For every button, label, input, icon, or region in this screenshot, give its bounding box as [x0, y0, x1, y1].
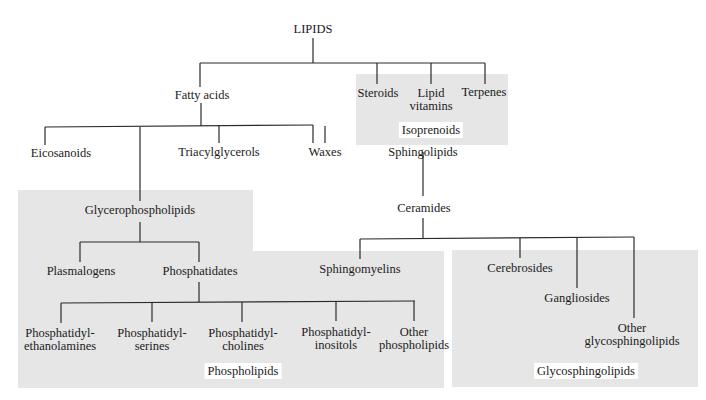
- node-phosphatidylethanolamines: Phosphatidyl- ethanolamines: [24, 327, 96, 353]
- node-plasmalogens: Plasmalogens: [47, 265, 116, 278]
- node-other-glycosphingolipids-line2: glycosphingolipids: [584, 335, 679, 348]
- node-waxes: Waxes: [308, 146, 341, 159]
- node-terpenes: Terpenes: [462, 86, 507, 99]
- node-other-glycosphingolipids: Other glycosphingolipids: [584, 322, 679, 348]
- node-pe-line2: ethanolamines: [24, 340, 96, 353]
- node-other-pl-line2: phospholipids: [379, 339, 449, 352]
- node-lipid-vitamins: Lipid vitamins: [409, 87, 452, 113]
- node-fatty-acids: Fatty acids: [175, 89, 230, 102]
- node-eicosanoids: Eicosanoids: [31, 147, 91, 160]
- group-label-isoprenoids: Isoprenoids: [399, 122, 463, 138]
- node-cerebrosides: Cerebrosides: [487, 262, 552, 275]
- node-steroids: Steroids: [358, 87, 399, 100]
- node-glycerophospholipids: Glycerophospholipids: [85, 204, 195, 217]
- node-gangliosides: Gangliosides: [544, 292, 609, 305]
- node-lipids: LIPIDS: [294, 23, 333, 36]
- node-sphingolipids: Sphingolipids: [388, 146, 457, 159]
- node-phosphatidylcholines: Phosphatidyl- cholines: [208, 327, 277, 353]
- node-ceramides: Ceramides: [397, 202, 450, 215]
- group-label-phospholipids: Phospholipids: [205, 363, 282, 379]
- node-sphingomyelins: Sphingomyelins: [319, 263, 400, 276]
- node-pc-line2: cholines: [208, 340, 277, 353]
- node-lipid-vitamins-line2: vitamins: [409, 100, 452, 113]
- node-pi-line2: inositols: [301, 339, 370, 352]
- group-label-glycosphingolipids: Glycosphingolipids: [534, 363, 638, 379]
- node-phosphatidylinositols: Phosphatidyl- inositols: [301, 326, 370, 352]
- node-phosphatidates: Phosphatidates: [163, 265, 238, 278]
- node-ps-line2: serines: [117, 340, 186, 353]
- node-phosphatidylserines: Phosphatidyl- serines: [117, 327, 186, 353]
- node-triacylglycerols: Triacylglycerols: [178, 146, 259, 159]
- node-other-phospholipids: Other phospholipids: [379, 326, 449, 352]
